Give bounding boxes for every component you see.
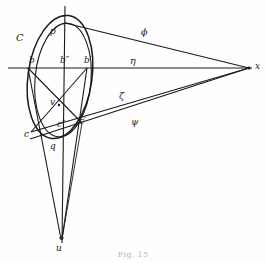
figure-container: C p b b″ b′ v c c″ c′ q u x ϕ η ζ ψ Fig.… bbox=[0, 0, 266, 263]
label-point-b-double-prime: b″ bbox=[60, 56, 69, 65]
label-point-b: b bbox=[29, 56, 35, 65]
label-point-p: p bbox=[50, 27, 56, 36]
label-point-c: c bbox=[24, 130, 29, 139]
chord-b-to-c1 bbox=[28, 68, 82, 123]
label-curve-C: C bbox=[16, 33, 24, 43]
label-ray-eta: η bbox=[130, 56, 136, 66]
cone-edge-c1-to-u bbox=[62, 123, 82, 239]
figure-caption: Fig. 15 bbox=[0, 250, 266, 259]
cone-edge-b1-to-u bbox=[62, 68, 87, 239]
label-point-b-prime: b′ bbox=[84, 56, 92, 65]
figure-drawing bbox=[0, 0, 266, 263]
vanishing-point-marker bbox=[247, 66, 250, 69]
label-ray-phi: ϕ bbox=[141, 27, 147, 37]
label-ray-psi: ψ bbox=[131, 117, 138, 127]
center-v-marker bbox=[58, 104, 60, 106]
label-point-q: q bbox=[50, 142, 56, 151]
label-point-x: x bbox=[255, 62, 260, 71]
vertex-u-marker bbox=[60, 236, 63, 239]
label-ray-zeta: ζ bbox=[119, 91, 124, 101]
cone-edge-b-to-u bbox=[28, 68, 61, 239]
label-point-v: v bbox=[50, 98, 55, 107]
label-point-c-prime: c′ bbox=[79, 117, 86, 126]
label-point-c-double-prime: c″ bbox=[57, 120, 65, 129]
